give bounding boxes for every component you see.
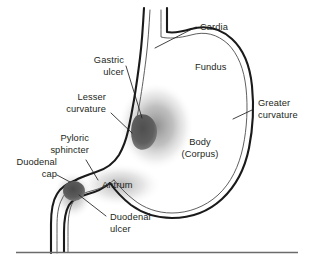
label-duodenal-cap-line1: Duodenal: [16, 157, 57, 167]
label-pyloric-sphincter-line1: Pyloric: [60, 133, 89, 143]
label-greater-curvature-line2: curvature: [258, 110, 298, 120]
label-greater-curvature-line1: Greater: [258, 98, 290, 108]
label-duodenal-cap-line2: cap: [42, 169, 57, 179]
duodenal-ulcer-lesion: [63, 181, 85, 201]
label-lesser-curvature-line1: Lesser: [77, 92, 106, 102]
label-duodenal-ulcer-line1: Duodenal: [110, 212, 151, 222]
label-duodenal-ulcer-line2: ulcer: [110, 224, 131, 234]
label-gastric-ulcer-line2: ulcer: [103, 67, 124, 77]
label-pyloric-sphincter-line2: sphincter: [50, 145, 89, 155]
label-lesser-curvature-line2: curvature: [66, 104, 106, 114]
label-cardia: Cardia: [200, 22, 229, 32]
label-fundus: Fundus: [195, 62, 227, 72]
label-antrum: Antrum: [102, 180, 133, 190]
label-body-line2: (Corpus): [182, 149, 219, 159]
label-body-line1: Body: [189, 137, 211, 147]
leader-greater-curvature: [233, 110, 252, 119]
stomach-anatomy-figure: Cardia Fundus Greater curvature Body (Co…: [0, 0, 321, 265]
label-gastric-ulcer-line1: Gastric: [94, 55, 124, 65]
